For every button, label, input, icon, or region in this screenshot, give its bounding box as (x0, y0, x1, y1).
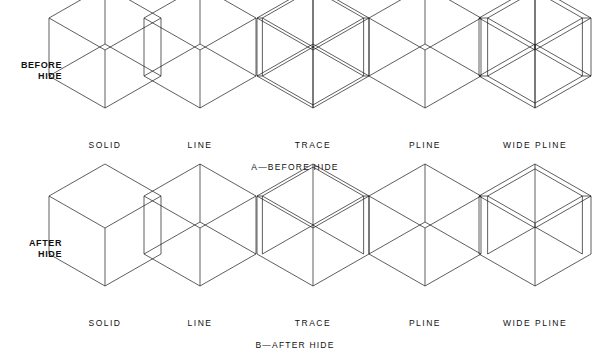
row-label-after-hide: AFTER HIDE (6, 238, 62, 260)
column-label-trace: TRACE (253, 140, 373, 150)
hide-comparison-figure (0, 0, 592, 360)
column-label-wide-pline: WIDE PLINE (475, 318, 592, 328)
row-label-before-hide: BEFORE HIDE (6, 60, 62, 82)
column-label-pline: PLINE (365, 140, 485, 150)
figure-caption-b: B—AFTER HIDE (195, 340, 395, 350)
column-label-pline: PLINE (365, 318, 485, 328)
figure-caption-a: A—BEFORE HIDE (195, 162, 395, 172)
column-label-line: LINE (140, 140, 260, 150)
column-label-line: LINE (140, 318, 260, 328)
column-label-wide-pline: WIDE PLINE (475, 140, 592, 150)
column-label-trace: TRACE (253, 318, 373, 328)
